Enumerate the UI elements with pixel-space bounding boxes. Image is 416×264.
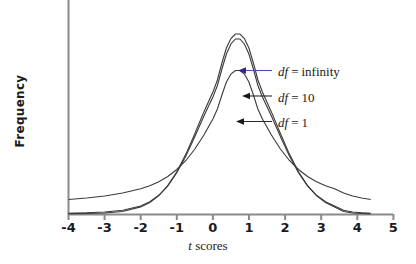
x-tick-label-4: 4: [344, 220, 370, 235]
legend-value-1: 10: [301, 90, 314, 105]
legend-df-symbol-2: df: [278, 115, 288, 130]
x-tick-label--2: -2: [128, 220, 154, 235]
legend-value-2: 1: [301, 115, 308, 130]
x-tick-label-3: 3: [308, 220, 334, 235]
x-tick-label-5: 5: [380, 220, 406, 235]
legend-equals-2: =: [288, 115, 301, 130]
legend-entry-df-1: df=1: [278, 115, 308, 131]
annotation-arrow-df-10: [242, 93, 272, 99]
legend-equals-0: =: [288, 64, 301, 79]
t-distribution-chart: Frequency t scores -4 -3 -2 -1 0 1 2 3 4…: [0, 0, 416, 264]
curve-df-1: [69, 71, 371, 200]
curve-df-infinity: [69, 34, 371, 214]
x-tick-label-0: 0: [200, 220, 226, 235]
legend-df-symbol-1: df: [278, 90, 288, 105]
x-tick-label--1: -1: [164, 220, 190, 235]
legend-entry-df-10: df=10: [278, 90, 314, 106]
x-tick-label-2: 2: [272, 220, 298, 235]
x-axis-title: t scores: [0, 238, 416, 254]
legend-df-symbol-0: df: [278, 64, 288, 79]
legend-equals-1: =: [288, 90, 301, 105]
x-tick-label--4: -4: [56, 220, 82, 235]
x-tick-label-1: 1: [236, 220, 262, 235]
y-axis-title: Frequency: [13, 51, 27, 171]
legend-entry-df-infinity: df=infinity: [278, 64, 340, 80]
annotation-arrow-df-1: [236, 118, 272, 124]
x-axis-title-rest: scores: [195, 238, 228, 253]
legend-value-0: infinity: [301, 64, 339, 79]
x-tick-label--3: -3: [92, 220, 118, 235]
